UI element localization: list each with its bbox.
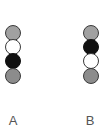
bead-a-3 bbox=[5, 53, 21, 69]
bead-a-4 bbox=[5, 68, 21, 84]
label-b: B bbox=[80, 113, 100, 128]
label-a: A bbox=[3, 113, 23, 128]
bead-b-4 bbox=[83, 68, 99, 84]
bead-b-3 bbox=[83, 53, 99, 69]
